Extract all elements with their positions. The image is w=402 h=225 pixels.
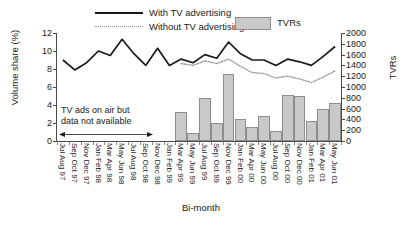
- y-axis-right-tick: [342, 44, 345, 45]
- annotation-line-1: TV ads on air but: [61, 105, 161, 116]
- line-with-tv-advertising: [63, 39, 335, 70]
- bar-swatch-icon: [235, 17, 271, 30]
- line-without-tv-advertising: [181, 59, 335, 82]
- x-axis-tick-label: Nov Dec 97: [81, 143, 90, 199]
- y-axis-left-tick: [53, 105, 56, 106]
- y-axis-left-tick: [53, 33, 56, 34]
- dotted-line-swatch-icon: [95, 26, 143, 27]
- y-axis-right-tick: [342, 55, 345, 56]
- y-axis-right-tick: [342, 98, 345, 99]
- y-axis-right-tick-label: 2000: [346, 29, 366, 38]
- y-axis-left-tick-label: 2: [47, 119, 52, 128]
- y-axis-left-tick-label: 6: [47, 83, 52, 92]
- legend-label-without-tv: Without TV advertising: [149, 20, 244, 33]
- y-axis-right-tick: [342, 130, 345, 131]
- y-axis-right-tick-label: 200: [346, 126, 361, 135]
- y-axis-left-tick-label: 8: [47, 65, 52, 74]
- y-axis-right-tick: [342, 141, 345, 142]
- x-axis-tick-label: Sep Oct 99: [211, 143, 220, 199]
- x-axis-tick-label: Jul Aug 98: [129, 143, 138, 199]
- x-axis-tick-label: Mar Apr 00: [247, 143, 256, 199]
- x-axis-tick-label: Mar Apr 01: [318, 143, 327, 199]
- y-axis-left-tick: [53, 87, 56, 88]
- y-axis-left-tick-label: 4: [47, 101, 52, 110]
- y-axis-right-tick-label: 1200: [346, 72, 366, 81]
- x-axis-tick: [341, 142, 342, 145]
- x-axis-tick-label: Jan Feb 01: [306, 143, 315, 199]
- x-axis-tick-labels: Jul Aug 97Sep Oct 97Nov Dec 97Jan Feb 98…: [57, 143, 341, 199]
- x-axis-tick-label: Sep Oct 97: [69, 143, 78, 199]
- y-axis-right-tick: [342, 33, 345, 34]
- x-axis-title: Bi-month: [0, 202, 402, 213]
- x-axis-tick-label: Mar Apr 98: [105, 143, 114, 199]
- annotation-line-2: data not available: [61, 116, 161, 127]
- y-axis-right-tick-label: 800: [346, 94, 361, 103]
- x-axis-tick-label: May Jun 99: [188, 143, 197, 199]
- x-axis-tick-label: Nov Dec 00: [294, 143, 303, 199]
- chart-canvas: With TV advertising Without TV advertisi…: [0, 0, 402, 225]
- x-axis-tick-label: Jan Feb 99: [164, 143, 173, 199]
- y-axis-right-tick-label: 0: [346, 137, 351, 146]
- y-axis-right-tick: [342, 109, 345, 110]
- y-axis-right-tick: [342, 76, 345, 77]
- annotation-double-arrow-icon: [59, 131, 153, 138]
- y-axis-left-tick-label: 10: [42, 47, 52, 56]
- y-axis-right-tick-label: 1600: [346, 51, 366, 60]
- x-axis-tick-label: Sep Oct 98: [140, 143, 149, 199]
- y-axis-left-tick: [53, 141, 56, 142]
- y-axis-right-tick-label: 1400: [346, 61, 366, 70]
- y-axis-left-tick: [53, 123, 56, 124]
- x-axis-tick-label: May Jun 00: [259, 143, 268, 199]
- y-axis-left-labels: 024681012: [26, 33, 52, 142]
- y-axis-right-tick-label: 600: [346, 105, 361, 114]
- y-axis-right-tick: [342, 87, 345, 88]
- x-axis-tick-label: Jan Feb 98: [93, 143, 102, 199]
- legend-label-with-tv: With TV advertising: [149, 6, 231, 19]
- y-axis-left-title: Volume share (%): [9, 13, 20, 123]
- x-axis-tick-label: Jul Aug 97: [58, 143, 67, 199]
- annotation-tv-ads-note: TV ads on air but data not available: [61, 105, 161, 126]
- y-axis-right-tick: [342, 65, 345, 66]
- legend-label-tvrs: TVRs: [277, 16, 301, 29]
- x-axis-tick-label: Nov Dec 98: [152, 143, 161, 199]
- x-axis-tick-label: Jan Feb 00: [235, 143, 244, 199]
- y-axis-right-tick-label: 400: [346, 115, 361, 124]
- y-axis-left-tick-label: 0: [47, 137, 52, 146]
- y-axis-right-tick-label: 1800: [346, 40, 366, 49]
- y-axis-left-tick: [53, 51, 56, 52]
- x-axis-tick-label: Jul Aug 00: [271, 143, 280, 199]
- x-axis-tick-label: Mar Apr 99: [176, 143, 185, 199]
- y-axis-left-tick-label: 12: [42, 29, 52, 38]
- solid-line-swatch-icon: [95, 12, 143, 14]
- x-axis-tick-label: May Jun 01: [330, 143, 339, 199]
- x-axis-tick-label: May Jun 98: [117, 143, 126, 199]
- y-axis-right-tick-label: 1000: [346, 83, 366, 92]
- y-axis-left-tick: [53, 69, 56, 70]
- y-axis-right-title: TVRs: [387, 13, 398, 123]
- x-axis-tick-label: Jul Aug 99: [200, 143, 209, 199]
- y-axis-right-tick: [342, 119, 345, 120]
- x-axis-tick-label: Nov Dec 99: [223, 143, 232, 199]
- chart-legend: With TV advertising Without TV advertisi…: [95, 6, 325, 36]
- x-axis-tick-label: Sep Oct 00: [282, 143, 291, 199]
- y-axis-right-labels: 0200400600800100012001400160018002000: [346, 33, 386, 142]
